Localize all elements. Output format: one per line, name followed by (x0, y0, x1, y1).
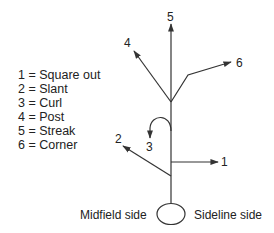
route-1-label: 1 (221, 155, 228, 169)
route-6-corner-arrow (171, 62, 231, 102)
route-4-post-arrow (134, 51, 171, 102)
sideline-side-label: Sideline side (194, 208, 262, 222)
route-3-label: 3 (146, 140, 153, 154)
route-tree-diagram: 5 4 6 3 1 2 Midfield side Sideline side (0, 0, 274, 233)
route-3-curl-arrow (150, 117, 171, 138)
receiver-position-ellipse (157, 204, 185, 225)
route-2-label: 2 (115, 132, 122, 146)
route-6-label: 6 (236, 56, 243, 70)
route-4-label: 4 (124, 36, 131, 50)
route-5-label: 5 (167, 10, 174, 24)
midfield-side-label: Midfield side (80, 208, 147, 222)
